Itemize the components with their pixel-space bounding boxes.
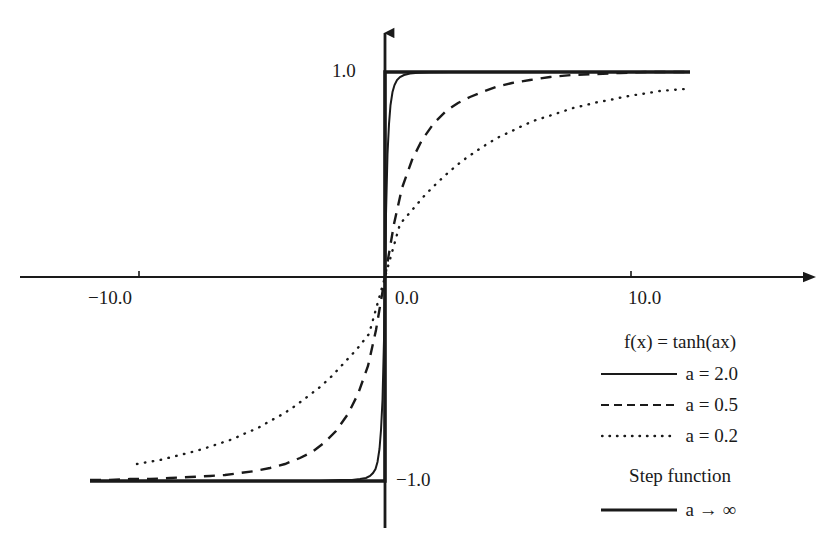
legend-swatch-solid-line	[601, 368, 677, 380]
legend-label-a-0p5: a = 0.5	[686, 394, 760, 416]
legend-item-step: a → ∞	[601, 499, 760, 521]
chart-legend: f(x) = tanh(ax) a = 2.0 a = 0.5	[530, 332, 830, 447]
legend-label-step: a → ∞	[686, 499, 760, 521]
y-axis-tick-label-one: 1.0	[332, 61, 356, 80]
step-function-heading: Step function	[530, 466, 830, 485]
legend-label-a-2p0: a = 2.0	[686, 363, 760, 385]
legend-title: f(x) = tanh(ax)	[530, 332, 830, 351]
legend-item-a-0p5: a = 0.5	[601, 394, 760, 416]
legend-item-a-0p2: a = 0.2	[601, 425, 760, 447]
legend-swatch-dotted-line	[601, 430, 677, 442]
chart-figure: −10.0 0.0 10.0 1.0 −1.0 f(x) = tanh(ax) …	[0, 0, 834, 549]
legend-swatch-thick-solid-line	[601, 504, 677, 516]
x-axis-tick-label-ten: 10.0	[628, 288, 661, 307]
legend-swatch-dashed-line	[601, 399, 677, 411]
y-axis-tick-label-neg-one: −1.0	[396, 470, 430, 489]
x-axis-tick-label-zero: 0.0	[395, 288, 419, 307]
x-axis-tick-label-neg-ten: −10.0	[88, 288, 132, 307]
legend-item-a-2p0: a = 2.0	[601, 363, 760, 385]
legend-label-a-0p2: a = 0.2	[686, 425, 760, 447]
step-function-legend: Step function a → ∞	[530, 466, 830, 521]
legend-entry-list: a = 2.0 a = 0.5 a = 0.2	[530, 363, 830, 447]
step-legend-entry-list: a → ∞	[530, 499, 830, 521]
